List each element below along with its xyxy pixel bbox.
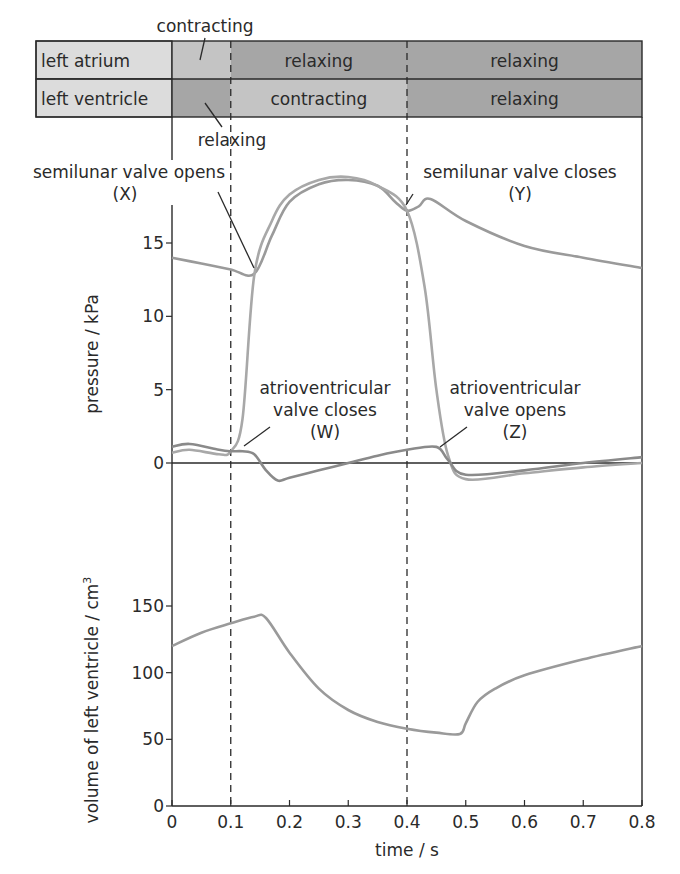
time-tick-label: 0	[167, 812, 178, 832]
time-tick-label: 0.5	[452, 812, 479, 832]
annotation-z: atrioventricular	[449, 378, 580, 398]
annotation-x: semilunar valve opens	[33, 162, 225, 182]
annotation-y: semilunar valve closes	[423, 162, 617, 182]
pressure-axis-title: pressure / kPa	[82, 294, 102, 414]
volume-tick-label: 150	[132, 596, 164, 616]
time-tick-label: 0.7	[570, 812, 597, 832]
cardiac-cycle-chart: left atriumrelaxingrelaxingleft ventricl…	[0, 0, 680, 874]
callout-relaxing: relaxing	[198, 130, 267, 150]
pressure-tick-label: 10	[142, 306, 164, 326]
callout-contracting: contracting	[157, 16, 254, 36]
time-tick-label: 0.3	[335, 812, 362, 832]
annotations: semilunar valve opens(X)semilunar valve …	[18, 160, 617, 447]
volume-tick-label: 50	[142, 729, 164, 749]
annotation-w: valve closes	[273, 400, 377, 420]
annotation-x: (X)	[113, 184, 138, 204]
phase-cell	[172, 41, 231, 79]
volume-axis-title: volume of left ventricle / cm3	[81, 577, 102, 824]
annotation-y: (Y)	[508, 184, 532, 204]
annotation-w: atrioventricular	[259, 378, 390, 398]
phase-label: relaxing	[490, 89, 559, 109]
phase-label: relaxing	[490, 51, 559, 71]
volume-tick-label: 100	[132, 663, 164, 683]
time-tick-label: 0.6	[511, 812, 538, 832]
pressure-tick-label: 0	[153, 453, 164, 473]
time-tick-label: 0.1	[217, 812, 244, 832]
time-tick-label: 0.8	[628, 812, 655, 832]
phase-label: relaxing	[285, 51, 354, 71]
pressure-tick-label: 15	[142, 233, 164, 253]
pressure-tick-label: 5	[153, 380, 164, 400]
row-label: left ventricle	[41, 89, 148, 109]
row-label: left atrium	[41, 51, 130, 71]
annotation-z: (Z)	[503, 422, 528, 442]
annotation-z: valve opens	[464, 400, 567, 420]
time-tick-label: 0.2	[276, 812, 303, 832]
time-tick-label: 0.4	[393, 812, 420, 832]
phase-label: contracting	[270, 89, 367, 109]
volume-tick-label: 0	[153, 796, 164, 816]
x-axis-title: time / s	[375, 840, 439, 860]
phase-table: left atriumrelaxingrelaxingleft ventricl…	[36, 16, 642, 150]
phase-cell	[172, 79, 231, 117]
annotation-w: (W)	[310, 422, 340, 442]
